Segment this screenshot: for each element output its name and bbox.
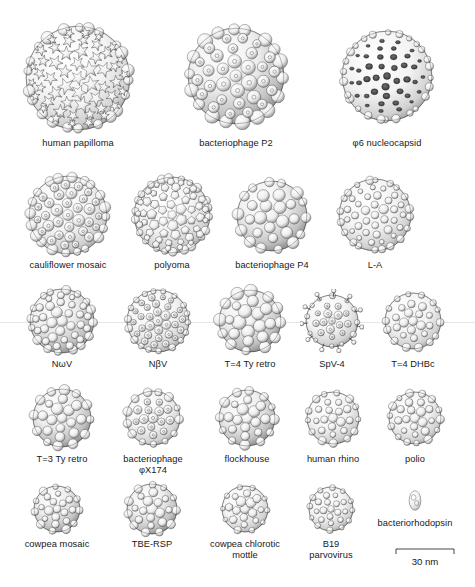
capsid-image — [128, 171, 216, 259]
specimen-spv-4: SpV-4 — [300, 289, 364, 353]
specimen-cowpea-chlorotic-mottle: cowpea chlorotic mottle — [216, 480, 274, 538]
specimen-bacteriophage-x174: bacteriophage φX174 — [120, 385, 186, 451]
capsid-image — [120, 385, 186, 451]
capsid-render — [28, 480, 86, 538]
specimen-label: φ6 nucleocapsid — [328, 138, 446, 149]
specimen-t-4-dhbc: T=4 DHBc — [379, 287, 447, 355]
specimen-bacteriophage-p4: bacteriophage P4 — [231, 175, 313, 257]
specimen-l-a: L-A — [333, 173, 417, 257]
capsid-image — [24, 283, 100, 359]
capsid-render — [336, 25, 438, 127]
capsid-render — [27, 383, 97, 453]
capsid-image — [404, 486, 426, 515]
capsid-render — [20, 20, 136, 136]
specimen-human-papilloma: human papilloma — [20, 20, 136, 136]
specimen-tbe-rsp: TBE-RSP — [121, 478, 183, 540]
capsid-image — [213, 284, 287, 358]
capsid-render — [301, 386, 365, 450]
specimen-flockhouse: flockhouse — [213, 384, 281, 452]
capsid-render — [383, 386, 447, 450]
capsid-image — [216, 480, 274, 538]
specimen-label: polio — [356, 454, 474, 465]
specimen-polio: polio — [383, 386, 447, 450]
capsid-render — [303, 481, 359, 537]
capsid-render — [128, 171, 216, 259]
specimen-label: cauliflower mosaic — [9, 260, 127, 271]
capsid-render — [333, 173, 417, 257]
capsid-render — [379, 287, 447, 355]
specimen-n-v: NωV — [24, 283, 100, 359]
capsid-render — [213, 384, 281, 452]
specimen-6-nucleocapsid: φ6 nucleocapsid — [336, 25, 438, 127]
capsid-render — [213, 284, 287, 358]
virus-capsid-gallery: human papillomabacteriophage P2φ6 nucleo… — [0, 0, 475, 587]
capsid-image — [383, 386, 447, 450]
specimen-cowpea-mosaic: cowpea mosaic — [28, 480, 86, 538]
capsid-render — [216, 480, 274, 538]
capsid-render — [23, 170, 113, 260]
capsid-image — [231, 175, 313, 257]
capsid-image — [28, 480, 86, 538]
capsid-render — [182, 22, 290, 130]
specimen-t-3-ty-retro: T=3 Ty retro — [27, 383, 97, 453]
capsid-image — [121, 478, 183, 540]
capsid-render — [120, 385, 186, 451]
capsid-image — [300, 289, 364, 353]
specimen-label: bacteriorhodopsin — [356, 518, 474, 529]
capsid-image — [333, 173, 417, 257]
specimen-label: human papilloma — [19, 138, 137, 149]
specimen-b19-parvovirus: B19 parvovirus — [303, 481, 359, 537]
specimen-cauliflower-mosaic: cauliflower mosaic — [23, 170, 113, 260]
specimen-label: bacteriophage P2 — [177, 138, 295, 149]
specimen-n-v: NβV — [121, 284, 195, 358]
capsid-image — [301, 386, 365, 450]
capsid-render — [231, 175, 313, 257]
capsid-image — [336, 25, 438, 127]
capsid-image — [23, 170, 113, 260]
specimen-label: bacteriophage P4 — [213, 260, 331, 271]
scale-bar-rule — [395, 548, 455, 555]
scale-bar: 30 nm — [395, 548, 455, 567]
capsid-render — [121, 478, 183, 540]
specimen-human-rhino: human rhino — [301, 386, 365, 450]
specimen-label: B19 parvovirus — [272, 539, 390, 560]
capsid-render — [300, 289, 364, 353]
capsid-image — [379, 287, 447, 355]
specimen-t-4-ty-retro: T=4 Ty retro — [213, 284, 287, 358]
capsid-render — [121, 284, 195, 358]
capsid-render — [24, 283, 100, 359]
specimen-polyoma: polyoma — [128, 171, 216, 259]
capsid-image — [182, 22, 290, 130]
specimen-label: L-A — [316, 260, 434, 271]
capsid-render — [404, 486, 426, 515]
scale-bar-label: 30 nm — [395, 556, 455, 567]
specimen-bacteriophage-p2: bacteriophage P2 — [182, 22, 290, 130]
capsid-image — [20, 20, 136, 136]
capsid-image — [121, 284, 195, 358]
capsid-image — [213, 384, 281, 452]
capsid-image — [303, 481, 359, 537]
capsid-image — [27, 383, 97, 453]
specimen-label: T=4 DHBc — [354, 359, 472, 370]
specimen-bacteriorhodopsin: bacteriorhodopsin — [404, 486, 426, 515]
